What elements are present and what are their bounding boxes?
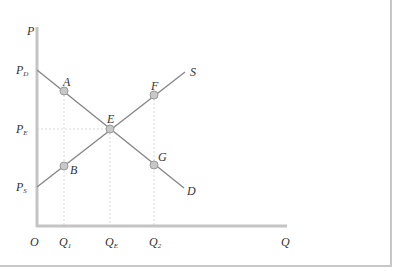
guide-lines	[37, 91, 154, 226]
quantity-label-q1: Q1	[59, 235, 71, 250]
supply-demand-diagram: P Q O PD PE PS Q1 QE Q2 S D A B E F G	[0, 0, 406, 271]
point-e	[106, 125, 114, 133]
price-label-pe: PE	[15, 122, 28, 137]
point-e-label: E	[106, 112, 115, 126]
origin-label: O	[30, 235, 39, 249]
point-a-label: A	[62, 75, 71, 89]
demand-curve-label: D	[186, 184, 196, 198]
x-axis-label: Q	[281, 235, 290, 249]
point-f-label: F	[150, 79, 159, 93]
supply-curve-label: S	[190, 65, 196, 79]
point-b-label: B	[70, 163, 78, 177]
y-axis-label: P	[26, 24, 35, 38]
price-label-ps: PS	[15, 180, 27, 195]
price-label-pd: PD	[15, 63, 28, 78]
point-g-label: G	[158, 150, 167, 164]
point-g	[150, 161, 158, 169]
point-b	[60, 162, 68, 170]
quantity-label-q2: Q2	[149, 235, 162, 250]
quantity-label-qe: QE	[105, 235, 119, 250]
